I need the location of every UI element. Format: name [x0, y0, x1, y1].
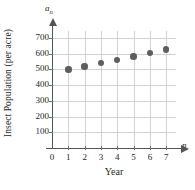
y-tick-label: 300	[36, 95, 50, 105]
gridline-horizontal	[52, 38, 176, 39]
gridline-vertical	[68, 31, 69, 148]
x-tick-label: 2	[81, 152, 89, 162]
x-tick-mark	[117, 146, 118, 150]
y-tick-mark	[49, 132, 53, 133]
y-tick-label: 200	[36, 111, 50, 121]
y-tick-mark	[49, 54, 53, 55]
x-tick-label: 4	[113, 152, 121, 162]
x-tick-label: 1	[64, 152, 72, 162]
x-tick-mark	[150, 146, 151, 150]
y-tick-label: 600	[36, 48, 50, 58]
y-tick-mark	[49, 85, 53, 86]
x-tick-label: 5	[130, 152, 138, 162]
x-axis-line	[46, 148, 183, 149]
gridline-vertical	[117, 31, 118, 148]
x-axis-title: Year	[52, 166, 176, 177]
data-point	[81, 63, 87, 69]
gridline-vertical	[101, 31, 102, 148]
x-tick-label: 7	[162, 152, 170, 162]
y-tick-mark	[49, 101, 53, 102]
x-tick-mark	[85, 146, 86, 150]
x-tick-label: 6	[146, 152, 154, 162]
insect-population-chart: Insect Population (per acre) an n Year 1…	[0, 0, 195, 190]
plot-area	[52, 31, 176, 148]
x-tick-mark	[166, 146, 167, 150]
y-tick-mark	[49, 69, 53, 70]
y-tick-label: 100	[36, 126, 50, 136]
y-axis-variable-subscript: n	[50, 8, 53, 15]
data-point	[147, 50, 153, 56]
x-tick-mark	[68, 146, 69, 150]
y-tick-mark	[49, 117, 53, 118]
gridline-vertical	[134, 31, 135, 148]
gridline-horizontal	[52, 101, 176, 102]
data-point	[98, 60, 104, 66]
data-point	[65, 66, 71, 72]
y-tick-label: 400	[36, 79, 50, 89]
gridline-horizontal	[52, 132, 176, 133]
y-tick-mark	[49, 38, 53, 39]
y-axis-variable-label: an	[45, 3, 53, 15]
data-point	[114, 57, 120, 63]
x-tick-label: 0	[48, 152, 56, 162]
y-tick-label: 500	[36, 63, 50, 73]
x-tick-mark	[101, 146, 102, 150]
data-point	[163, 46, 169, 52]
x-axis-arrow-icon	[181, 145, 189, 153]
gridline-vertical	[85, 31, 86, 148]
data-point	[130, 53, 136, 59]
x-tick-mark	[134, 146, 135, 150]
y-axis-title: Insect Population (per acre)	[0, 0, 16, 165]
gridline-vertical	[150, 31, 151, 148]
y-axis-title-text: Insect Population (per acre)	[3, 28, 13, 136]
y-tick-label: 700	[36, 32, 50, 42]
x-tick-label: 3	[97, 152, 105, 162]
gridline-horizontal	[52, 85, 176, 86]
gridline-horizontal	[52, 54, 176, 55]
gridline-horizontal	[52, 117, 176, 118]
